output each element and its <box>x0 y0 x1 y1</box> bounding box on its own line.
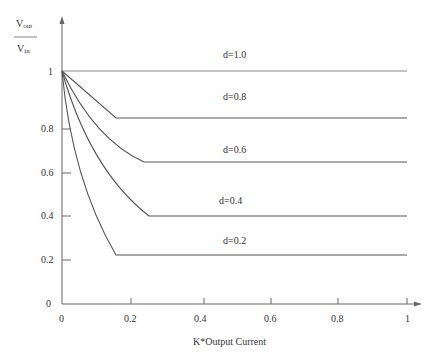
svg-text:d=0.6: d=0.6 <box>223 144 246 155</box>
svg-text:0.2: 0.2 <box>41 254 54 265</box>
y-axis-arrow-icon <box>60 16 65 24</box>
chart-canvas: Vout Vin 0 0.2 0.4 0.6 0.8 1 0 0.2 0.4 0… <box>0 0 444 361</box>
x-ticks <box>131 298 407 304</box>
x-tick-labels: 0 0.2 0.4 0.6 0.8 1 <box>59 313 410 324</box>
svg-text:0.8: 0.8 <box>331 313 344 324</box>
y-axis-label-numerator: Vout <box>16 18 32 30</box>
svg-text:0.6: 0.6 <box>41 167 54 178</box>
svg-text:1: 1 <box>405 313 410 324</box>
x-axis-arrow-icon <box>414 302 422 307</box>
svg-text:0.2: 0.2 <box>124 313 137 324</box>
svg-text:1: 1 <box>48 66 53 77</box>
svg-text:d=0.4: d=0.4 <box>219 195 242 206</box>
svg-text:0: 0 <box>59 313 64 324</box>
svg-text:0.4: 0.4 <box>194 313 207 324</box>
x-axis-title: K*Output Current <box>193 336 266 347</box>
svg-text:0.6: 0.6 <box>264 313 277 324</box>
svg-text:0.8: 0.8 <box>41 123 54 134</box>
svg-text:0: 0 <box>46 298 51 309</box>
y-axis-label-denominator: Vin <box>17 43 30 55</box>
svg-text:d=1.0: d=1.0 <box>223 49 246 60</box>
svg-text:0.4: 0.4 <box>41 210 54 221</box>
svg-text:d=0.8: d=0.8 <box>223 91 246 102</box>
y-tick-labels: 0 0.2 0.4 0.6 0.8 1 <box>41 66 54 309</box>
svg-text:d=0.2: d=0.2 <box>223 235 246 246</box>
y-ticks <box>62 129 71 260</box>
